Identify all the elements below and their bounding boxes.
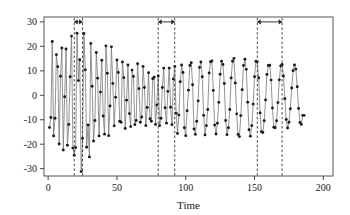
series-marker [121, 61, 124, 64]
series-marker [318, 0, 321, 1]
series-marker [305, 0, 308, 1]
series-marker [77, 79, 80, 82]
series-marker [187, 89, 190, 92]
series-marker [234, 82, 237, 85]
series-marker [78, 58, 81, 61]
series-marker [66, 144, 69, 147]
series-marker [166, 90, 169, 93]
series-marker [199, 61, 202, 64]
series-marker [70, 35, 73, 38]
series-marker [195, 120, 198, 123]
series-marker [231, 60, 234, 63]
series-marker [198, 66, 201, 69]
series-marker [176, 132, 179, 135]
series-marker [310, 0, 313, 1]
series-marker [93, 119, 96, 122]
series-marker [171, 123, 174, 126]
series-marker [224, 119, 227, 122]
series-marker [153, 76, 156, 79]
series-marker [250, 124, 253, 127]
x-axis-tick-label: 100 [178, 182, 193, 193]
series-marker [91, 85, 94, 88]
series-marker [127, 63, 130, 66]
series-marker [164, 106, 167, 109]
series-marker [84, 68, 87, 71]
series-marker [154, 123, 157, 126]
series-marker [243, 58, 246, 61]
series-marker [206, 108, 209, 111]
series-marker [274, 126, 277, 129]
series-marker [264, 98, 267, 101]
series-marker [103, 133, 106, 136]
series-marker [55, 53, 58, 56]
series-marker [89, 42, 92, 45]
series-marker [165, 122, 168, 125]
series-marker [133, 123, 136, 126]
series-marker [319, 0, 322, 1]
series-marker [253, 75, 256, 78]
series-marker [56, 65, 59, 68]
series-marker [184, 134, 187, 137]
series-marker [160, 117, 163, 120]
y-axis-tick-label: -20 [24, 139, 37, 150]
series-marker [201, 75, 204, 78]
series-marker [179, 80, 182, 83]
series-marker [216, 122, 219, 125]
series-marker [227, 126, 230, 129]
series-marker [239, 114, 242, 117]
chirp-signal-chart: -30-20-100102030050100150200Time [0, 0, 350, 215]
series-marker [268, 64, 271, 67]
series-marker [217, 101, 220, 104]
series-marker [120, 121, 123, 124]
series-marker [102, 115, 105, 118]
series-marker [202, 114, 205, 117]
series-marker [215, 132, 218, 135]
series-marker [286, 127, 289, 130]
series-marker [117, 71, 120, 74]
y-axis-tick-label: -10 [24, 114, 37, 125]
series-marker [114, 96, 117, 99]
series-marker [213, 124, 216, 127]
series-marker [180, 63, 183, 66]
series-marker [312, 0, 315, 1]
series-marker [162, 67, 165, 70]
series-marker [232, 57, 235, 60]
series-marker [92, 140, 95, 143]
y-axis-tick-label: 30 [27, 16, 37, 27]
series-marker [300, 123, 303, 126]
series-marker [294, 68, 297, 71]
series-marker [315, 0, 318, 1]
series-marker [111, 82, 114, 85]
series-marker [208, 72, 211, 75]
series-marker [52, 134, 55, 137]
series-marker [270, 79, 273, 82]
series-marker [292, 69, 295, 72]
series-marker [100, 59, 103, 62]
series-marker [51, 40, 54, 43]
series-marker [293, 63, 296, 66]
series-marker [316, 0, 319, 1]
series-marker [132, 75, 135, 78]
series-marker [259, 111, 262, 114]
series-marker [314, 0, 317, 1]
series-marker [245, 68, 248, 71]
series-marker [124, 127, 127, 130]
series-marker [263, 119, 266, 122]
series-marker [168, 67, 171, 70]
series-marker [109, 105, 112, 108]
x-axis-title: Time [177, 199, 200, 211]
series-marker [204, 133, 207, 136]
series-marker [242, 64, 245, 67]
series-marker [110, 45, 113, 48]
series-marker [246, 101, 249, 104]
series-marker [149, 117, 152, 120]
series-marker [289, 107, 292, 110]
series-marker [150, 120, 153, 123]
series-marker [205, 124, 208, 127]
series-marker [177, 114, 180, 117]
series-marker [115, 59, 118, 62]
series-marker [106, 72, 109, 75]
series-marker [235, 112, 238, 115]
series-marker [226, 133, 229, 136]
series-marker [85, 146, 88, 149]
